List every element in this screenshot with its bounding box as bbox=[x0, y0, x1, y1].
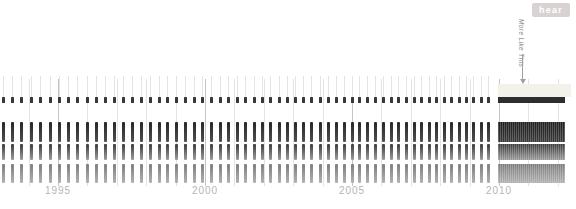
lane-dark-bar[interactable] bbox=[269, 122, 272, 142]
lane-light-bar[interactable] bbox=[86, 164, 89, 183]
lane-dark-bar[interactable] bbox=[76, 122, 79, 142]
lane-dark-bar[interactable] bbox=[278, 122, 281, 142]
lane-medium-bar[interactable] bbox=[20, 144, 23, 160]
lane-dark-bar[interactable] bbox=[11, 122, 14, 142]
lane-dark-bar[interactable] bbox=[39, 122, 42, 142]
event-tick[interactable] bbox=[405, 97, 408, 103]
lane-dark-bar[interactable] bbox=[86, 122, 89, 142]
lane-medium-bar[interactable] bbox=[310, 144, 313, 160]
lane-light-bar[interactable] bbox=[428, 164, 431, 183]
event-tick[interactable] bbox=[435, 97, 438, 103]
lane-light-bar[interactable] bbox=[405, 164, 408, 183]
lane-dark-bar[interactable] bbox=[358, 122, 361, 142]
dense-dark-block[interactable] bbox=[498, 122, 565, 142]
lane-dark-bar[interactable] bbox=[465, 122, 468, 142]
event-tick[interactable] bbox=[397, 97, 400, 103]
lane-dark-bar[interactable] bbox=[2, 122, 5, 142]
lane-dark-bar[interactable] bbox=[443, 122, 446, 142]
lane-medium-bar[interactable] bbox=[95, 144, 98, 160]
lane-light-bar[interactable] bbox=[131, 164, 134, 183]
event-tick[interactable] bbox=[104, 97, 107, 103]
lane-dark-bar[interactable] bbox=[319, 122, 322, 142]
event-tick[interactable] bbox=[327, 97, 330, 103]
lane-light-bar[interactable] bbox=[358, 164, 361, 183]
event-tick[interactable] bbox=[113, 97, 116, 103]
lane-dark-bar[interactable] bbox=[435, 122, 438, 142]
event-tick[interactable] bbox=[261, 97, 264, 103]
event-tick[interactable] bbox=[294, 97, 297, 103]
lane-light-bar[interactable] bbox=[487, 164, 490, 183]
lane-medium-bar[interactable] bbox=[253, 144, 256, 160]
lane-medium-bar[interactable] bbox=[443, 144, 446, 160]
lane-dark-bar[interactable] bbox=[67, 122, 70, 142]
event-tick[interactable] bbox=[227, 97, 230, 103]
lane-medium-bar[interactable] bbox=[343, 144, 346, 160]
lane-light-bar[interactable] bbox=[435, 164, 438, 183]
lane-light-bar[interactable] bbox=[2, 164, 5, 183]
event-tick[interactable] bbox=[302, 97, 305, 103]
lane-medium-bar[interactable] bbox=[450, 144, 453, 160]
event-tick[interactable] bbox=[390, 97, 393, 103]
event-tick[interactable] bbox=[319, 97, 322, 103]
lane-light-bar[interactable] bbox=[166, 164, 169, 183]
event-tick[interactable] bbox=[131, 97, 134, 103]
lane-dark-bar[interactable] bbox=[472, 122, 475, 142]
lane-medium-bar[interactable] bbox=[122, 144, 125, 160]
lane-medium-bar[interactable] bbox=[201, 144, 204, 160]
lane-dark-bar[interactable] bbox=[113, 122, 116, 142]
event-tick[interactable] bbox=[244, 97, 247, 103]
lane-dark-bar[interactable] bbox=[261, 122, 264, 142]
lane-light-bar[interactable] bbox=[140, 164, 143, 183]
lane-light-bar[interactable] bbox=[472, 164, 475, 183]
event-tick[interactable] bbox=[184, 97, 187, 103]
event-tick[interactable] bbox=[95, 97, 98, 103]
lane-medium-bar[interactable] bbox=[175, 144, 178, 160]
lane-light-bar[interactable] bbox=[286, 164, 289, 183]
lane-medium-bar[interactable] bbox=[131, 144, 134, 160]
lane-dark-bar[interactable] bbox=[487, 122, 490, 142]
lane-light-bar[interactable] bbox=[458, 164, 461, 183]
lane-medium-bar[interactable] bbox=[261, 144, 264, 160]
lane-medium-bar[interactable] bbox=[11, 144, 14, 160]
lane-dark-bar[interactable] bbox=[374, 122, 377, 142]
lane-dark-bar[interactable] bbox=[244, 122, 247, 142]
event-tick[interactable] bbox=[487, 97, 490, 103]
lane-medium-bar[interactable] bbox=[269, 144, 272, 160]
event-tick[interactable] bbox=[480, 97, 483, 103]
lane-medium-bar[interactable] bbox=[397, 144, 400, 160]
lane-medium-bar[interactable] bbox=[76, 144, 79, 160]
lane-dark-bar[interactable] bbox=[58, 122, 61, 142]
lane-light-bar[interactable] bbox=[201, 164, 204, 183]
lane-dark-bar[interactable] bbox=[95, 122, 98, 142]
lane-light-bar[interactable] bbox=[39, 164, 42, 183]
lane-medium-bar[interactable] bbox=[104, 144, 107, 160]
lane-dark-bar[interactable] bbox=[405, 122, 408, 142]
lane-medium-bar[interactable] bbox=[465, 144, 468, 160]
event-tick[interactable] bbox=[428, 97, 431, 103]
event-tick[interactable] bbox=[413, 97, 416, 103]
lane-light-bar[interactable] bbox=[382, 164, 385, 183]
lane-light-bar[interactable] bbox=[397, 164, 400, 183]
lane-dark-bar[interactable] bbox=[286, 122, 289, 142]
lane-light-bar[interactable] bbox=[443, 164, 446, 183]
lane-light-bar[interactable] bbox=[374, 164, 377, 183]
event-tick[interactable] bbox=[465, 97, 468, 103]
lane-light-bar[interactable] bbox=[261, 164, 264, 183]
event-tick[interactable] bbox=[49, 97, 52, 103]
event-tick[interactable] bbox=[149, 97, 152, 103]
dense-medium-block[interactable] bbox=[498, 144, 565, 160]
event-tick[interactable] bbox=[366, 97, 369, 103]
lane-dark-bar[interactable] bbox=[302, 122, 305, 142]
lane-light-bar[interactable] bbox=[175, 164, 178, 183]
lane-dark-bar[interactable] bbox=[193, 122, 196, 142]
lane-dark-bar[interactable] bbox=[30, 122, 33, 142]
lane-light-bar[interactable] bbox=[450, 164, 453, 183]
lane-medium-bar[interactable] bbox=[374, 144, 377, 160]
event-tick[interactable] bbox=[450, 97, 453, 103]
event-tick[interactable] bbox=[236, 97, 239, 103]
lane-light-bar[interactable] bbox=[319, 164, 322, 183]
event-tick[interactable] bbox=[374, 97, 377, 103]
lane-dark-bar[interactable] bbox=[122, 122, 125, 142]
lane-medium-bar[interactable] bbox=[428, 144, 431, 160]
event-tick[interactable] bbox=[420, 97, 423, 103]
